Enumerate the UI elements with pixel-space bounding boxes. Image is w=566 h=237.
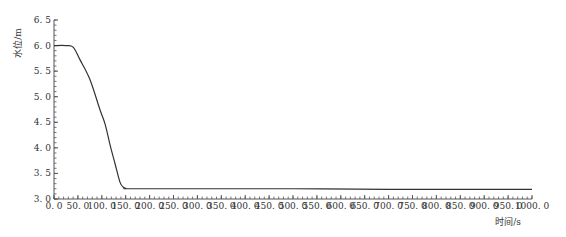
x-tick-label: 0. 0 xyxy=(45,201,62,211)
y-tick-label: 6. 0 xyxy=(34,41,51,51)
y-tick-label: 4. 0 xyxy=(34,143,51,153)
y-tick-label: 6. 5 xyxy=(34,15,51,25)
x-axis: 0. 050. 0100. 0150. 0200. 0250. 0300. 03… xyxy=(45,195,549,211)
y-axis: 3. 03. 54. 04. 55. 05. 56. 06. 5 xyxy=(34,15,58,204)
x-tick-label: 50. 0 xyxy=(66,201,89,211)
water-level-line xyxy=(54,45,532,189)
y-axis-title: 水位/m xyxy=(12,28,23,58)
y-tick-label: 5. 5 xyxy=(34,66,51,76)
water-level-chart: 3. 03. 54. 04. 55. 05. 56. 06. 5 0. 050.… xyxy=(0,0,566,237)
x-tick-label: 1000. 0 xyxy=(515,201,550,211)
y-tick-label: 4. 5 xyxy=(34,117,51,127)
x-axis-title: 时间/s xyxy=(495,216,521,227)
y-tick-label: 5. 0 xyxy=(34,92,51,102)
y-tick-label: 3. 5 xyxy=(34,168,51,178)
